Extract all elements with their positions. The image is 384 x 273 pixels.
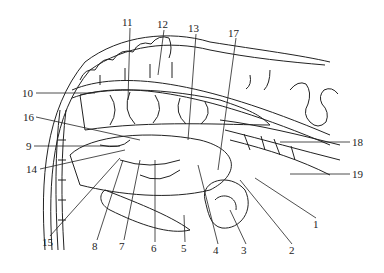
anatomical-drawing <box>0 0 384 273</box>
lower-organ <box>101 190 190 231</box>
callout-7: 7 <box>119 241 125 252</box>
callout-18: 18 <box>352 137 363 148</box>
callout-5: 5 <box>181 243 187 254</box>
body-outline <box>43 36 330 250</box>
callout-11: 11 <box>122 17 133 28</box>
callout-9: 9 <box>26 141 32 152</box>
callout-16: 16 <box>23 112 34 123</box>
callout-17: 17 <box>228 28 239 39</box>
callout-14: 14 <box>26 164 37 175</box>
callout-12: 12 <box>157 19 168 30</box>
callout-15: 15 <box>42 237 53 248</box>
intestine-upper <box>80 90 270 130</box>
callout-6: 6 <box>151 243 157 254</box>
callout-3: 3 <box>241 245 247 256</box>
callout-19: 19 <box>352 169 363 180</box>
callout-10: 10 <box>22 88 33 99</box>
callout-1: 1 <box>313 219 319 230</box>
kidney <box>204 180 248 228</box>
callout-2: 2 <box>289 245 295 256</box>
callout-8: 8 <box>92 241 98 252</box>
callout-4: 4 <box>213 245 219 256</box>
vertebrae <box>80 37 172 85</box>
callout-13: 13 <box>188 23 199 34</box>
vessels <box>220 120 340 175</box>
